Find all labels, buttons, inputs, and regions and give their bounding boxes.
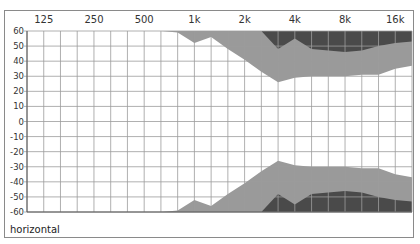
- angle-label: -30: [10, 162, 24, 172]
- angle-label: -20: [10, 147, 24, 157]
- angle-label: 30: [13, 71, 24, 81]
- frequency-label: 16k: [386, 14, 405, 25]
- frequency-label: 125: [34, 14, 53, 25]
- angle-label: -40: [10, 177, 24, 187]
- angle-label: -10: [10, 132, 24, 142]
- angle-label: 0: [19, 117, 24, 127]
- directivity-chart: 1252505001k2k4k8k16k 6050403020100-10-20…: [0, 0, 420, 244]
- frequency-label: 8k: [339, 14, 351, 25]
- angle-label: 40: [13, 56, 24, 66]
- angle-label: 60: [13, 26, 24, 36]
- angle-label: 10: [13, 101, 24, 111]
- angle-label: -60: [10, 207, 24, 217]
- angle-axis-labels: 6050403020100-10-20-30-40-50-60: [10, 26, 24, 217]
- chart-label: horizontal: [10, 224, 60, 235]
- frequency-label: 500: [135, 14, 154, 25]
- angle-label: -50: [10, 192, 24, 202]
- angle-label: 20: [13, 86, 24, 96]
- frequency-label: 2k: [239, 14, 251, 25]
- frequency-axis-labels: 1252505001k2k4k8k16k: [34, 14, 405, 25]
- frequency-label: 250: [84, 14, 103, 25]
- frequency-label: 1k: [188, 14, 200, 25]
- frequency-label: 4k: [289, 14, 301, 25]
- angle-label: 50: [13, 41, 24, 51]
